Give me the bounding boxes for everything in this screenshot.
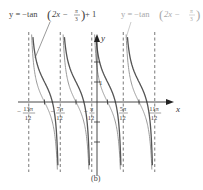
svg-text:13π: 13π (23, 105, 33, 112)
svg-text:+ 1: + 1 (85, 9, 96, 19)
svg-text:π: π (190, 8, 193, 14)
y-tick-label-1: 1 (99, 79, 103, 87)
svg-text:2x −: 2x − (52, 9, 68, 19)
tangent-graph: x y 1 −13π12−7π12−π125π1211π12 y = −tan … (0, 0, 203, 190)
x-tick-label: −π12 (84, 105, 95, 121)
x-tick-labels: −13π12−7π12−π125π1211π12 (17, 105, 161, 121)
svg-text:12: 12 (25, 114, 32, 121)
equation-label-dark: y = −tan ( 2x − π 3 ) + 1 (9, 7, 96, 58)
svg-text:(: ( (159, 7, 163, 22)
y-axis-label: y (100, 33, 105, 43)
curve-branch (64, 37, 89, 165)
svg-text:y = −tan: y = −tan (121, 9, 150, 19)
svg-text:7π: 7π (57, 105, 64, 112)
curve-branch (127, 37, 152, 165)
svg-text:2x −: 2x − (164, 9, 180, 19)
svg-text:−: − (51, 108, 55, 116)
svg-text:12: 12 (56, 114, 63, 121)
svg-text:12: 12 (119, 114, 126, 121)
svg-text:3: 3 (75, 16, 78, 22)
pointer-line-light (126, 22, 131, 38)
svg-text:5π: 5π (120, 105, 127, 112)
curve-branch (96, 37, 121, 165)
figure-caption: (b) (91, 174, 101, 183)
svg-text:−: − (17, 108, 21, 116)
svg-text:3: 3 (190, 16, 193, 22)
svg-text:(: ( (47, 7, 51, 22)
curve-branch (33, 37, 58, 165)
x-tick-label: 5π12 (119, 105, 128, 121)
svg-text:11π: 11π (149, 105, 159, 112)
svg-text:y = −tan: y = −tan (9, 9, 38, 19)
svg-text:12: 12 (88, 114, 95, 121)
x-axis-arrow-icon (166, 99, 174, 105)
svg-text:π: π (75, 8, 78, 14)
pointer-line-dark (35, 22, 50, 58)
equation-label-light: y = −tan ( 2x − π 3 ) (121, 7, 200, 38)
x-axis-label: x (175, 104, 180, 114)
svg-text:): ) (196, 7, 200, 22)
x-tick-label: −13π12 (17, 105, 35, 121)
curve-tan-plus-one (33, 37, 152, 165)
svg-text:π: π (90, 105, 94, 112)
x-tick-label: −7π12 (51, 105, 65, 121)
svg-text:12: 12 (151, 114, 158, 121)
x-tick-label: 11π12 (149, 105, 161, 121)
